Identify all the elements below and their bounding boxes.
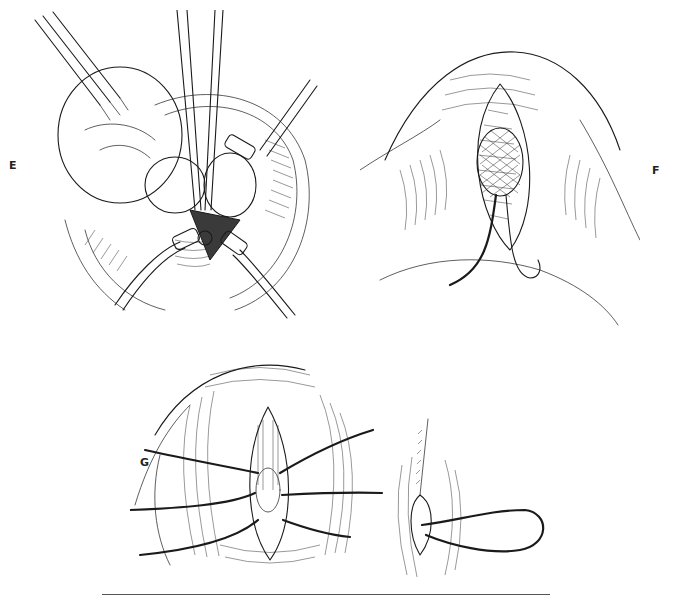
running-suture xyxy=(416,430,422,484)
mesh-patch xyxy=(477,128,523,196)
panel-label-g: G xyxy=(140,456,149,469)
layered-closure xyxy=(130,365,382,565)
suture-loop xyxy=(422,510,543,551)
forceps-icon xyxy=(35,12,128,120)
panel-g-illustration xyxy=(130,345,550,585)
retractor-right-icon xyxy=(219,230,295,318)
incision-cavity xyxy=(190,210,240,260)
retractor-left-icon xyxy=(115,227,201,310)
mesh-crosshatch xyxy=(480,130,520,197)
clamp-icon xyxy=(224,80,317,161)
scissors-icon xyxy=(177,10,223,210)
panel-f-drawing xyxy=(360,40,640,330)
panel-e-illustration xyxy=(25,10,325,320)
panel-f-illustration xyxy=(360,40,640,330)
incision-opening xyxy=(250,407,289,560)
panel-e-drawing xyxy=(25,10,325,320)
panel-g-drawing xyxy=(130,345,550,585)
panel-label-e: E xyxy=(9,159,17,172)
tissue-folds xyxy=(360,52,640,325)
caption-divider xyxy=(102,594,550,595)
panel-label-f: F xyxy=(652,164,660,177)
closed-incision xyxy=(398,419,543,577)
